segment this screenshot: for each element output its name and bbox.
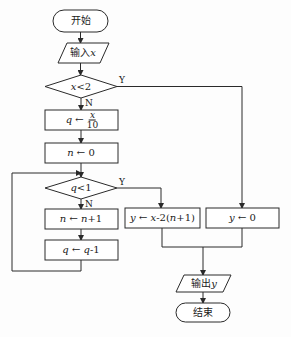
end-label: 结束: [193, 308, 213, 318]
assign-arrow: ←: [69, 213, 77, 224]
y0-rhs: 0: [250, 212, 256, 223]
assign-arrow: ←: [72, 244, 80, 255]
y-formula-lhs: y: [130, 212, 136, 223]
cond1-yes-label: Y: [119, 76, 125, 85]
dec-q-rhs-rest: -1: [90, 244, 100, 255]
assign-y-formula-label: y ← x-2(n+1): [130, 213, 195, 223]
decrement-q-label: q ← q-1: [62, 245, 99, 255]
flowchart: 开始 输入x x<2 Y N q ← x10 n ← 0 q<1 Y N n ←…: [0, 0, 291, 337]
y-formula-tail: +1): [176, 212, 195, 223]
cond1-no-label: N: [85, 99, 93, 108]
output-var: y: [211, 278, 217, 289]
assign-n0-lhs: n: [67, 147, 73, 158]
assign-arrow: ←: [238, 212, 246, 223]
assign-arrow: ←: [75, 114, 83, 125]
assign-arrow: ←: [139, 212, 147, 223]
assign-y0-label: y ← 0: [229, 213, 256, 223]
y-formula-part: -2(: [156, 212, 170, 223]
assign-q-lhs: q: [66, 114, 72, 125]
cond1-label: x<2: [71, 82, 91, 92]
dec-q-lhs: q: [62, 244, 68, 255]
y0-lhs: y: [229, 212, 235, 223]
cond2-label: q<1: [70, 183, 91, 193]
flowchart-shapes: [0, 0, 291, 337]
cond2-no-label: N: [85, 200, 93, 209]
cond1-value: 2: [85, 81, 91, 92]
cond2-value: 1: [85, 182, 91, 193]
assign-arrow: ←: [77, 147, 85, 158]
input-label: 输入x: [70, 48, 96, 58]
output-label: 输出y: [191, 279, 217, 289]
cond2-op: <: [77, 182, 85, 193]
cond1-op: <: [76, 81, 84, 92]
increment-n-label: n ← n+1: [60, 214, 102, 224]
assign-n0-label: n ← 0: [67, 148, 95, 158]
fraction-x-over-10: x10: [87, 111, 98, 130]
output-prefix: 输出: [191, 278, 211, 289]
assign-q-label: q ← x10: [66, 111, 99, 130]
input-var: x: [90, 47, 96, 58]
start-label: 开始: [71, 16, 91, 26]
inc-n-rhs-rest: +1: [87, 213, 102, 224]
cond2-yes-label: Y: [119, 178, 125, 187]
inc-n-lhs: n: [60, 213, 66, 224]
input-prefix: 输入: [70, 47, 90, 58]
fraction-denominator: 10: [87, 121, 98, 130]
assign-n0-rhs: 0: [88, 147, 94, 158]
